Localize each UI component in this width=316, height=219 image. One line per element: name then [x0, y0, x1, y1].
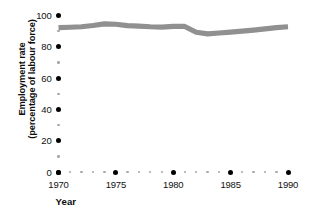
x-tick-dot-1970 [56, 170, 61, 175]
x-tick-label-1980: 1980 [155, 179, 191, 190]
y-tick-dot-40 [56, 107, 61, 112]
employment-rate-series [59, 24, 289, 34]
y-tick-label-20: 20 [26, 135, 52, 146]
x-tick-label-1970: 1970 [41, 179, 77, 190]
x-minor-dot-1979 [161, 171, 163, 173]
y-tick-dot-100 [56, 13, 61, 18]
x-minor-dot-1981 [184, 171, 186, 173]
x-minor-dot-1987 [252, 171, 254, 173]
y-minor-dot-90 [57, 30, 59, 32]
x-axis-title: Year [56, 196, 77, 207]
x-minor-dot-1973 [92, 171, 94, 173]
x-minor-dot-1983 [206, 171, 208, 173]
y-minor-dot-50 [57, 93, 59, 95]
x-minor-dot-1984 [218, 171, 220, 173]
x-tick-label-1985: 1985 [213, 179, 249, 190]
x-minor-dot-1976 [126, 171, 128, 173]
x-minor-dot-1982 [195, 171, 197, 173]
employment-rate-line-chart: Employment rate (percentage of labour fo… [0, 0, 316, 219]
x-minor-dot-1974 [103, 171, 105, 173]
y-tick-label-80: 80 [26, 41, 52, 52]
y-minor-dot-10 [57, 155, 59, 157]
x-minor-dot-1978 [149, 171, 151, 173]
y-tick-dot-20 [56, 138, 61, 143]
x-minor-dot-1971 [69, 171, 71, 173]
x-minor-dot-1989 [275, 171, 277, 173]
y-minor-dot-30 [57, 124, 59, 126]
x-tick-dot-1985 [228, 170, 233, 175]
y-minor-dot-70 [57, 61, 59, 63]
y-tick-dot-60 [56, 76, 61, 81]
x-minor-dot-1988 [264, 171, 266, 173]
y-tick-label-100: 100 [26, 10, 52, 21]
x-tick-dot-1990 [286, 170, 291, 175]
x-minor-dot-1972 [80, 171, 82, 173]
x-tick-label-1990: 1990 [270, 179, 306, 190]
y-tick-dot-80 [56, 44, 61, 49]
x-tick-dot-1980 [171, 170, 176, 175]
y-tick-label-0: 0 [26, 167, 52, 178]
y-tick-label-60: 60 [26, 73, 52, 84]
x-tick-dot-1975 [113, 170, 118, 175]
x-minor-dot-1986 [241, 171, 243, 173]
x-minor-dot-1977 [138, 171, 140, 173]
y-tick-label-40: 40 [26, 104, 52, 115]
x-tick-label-1975: 1975 [98, 179, 134, 190]
